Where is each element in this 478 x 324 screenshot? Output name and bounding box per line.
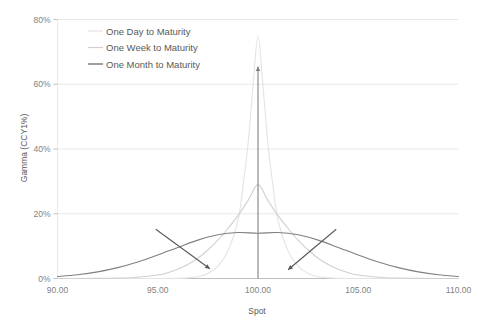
y-tick-label: 60% — [33, 79, 50, 89]
legend-label: One Day to Maturity — [106, 26, 191, 37]
y-tick-label: 40% — [33, 144, 50, 154]
y-tick-label: 20% — [33, 209, 50, 219]
y-tick-label: 80% — [33, 15, 50, 25]
gamma-vs-spot-chart: 0%20%40%60%80% 90.0095.00100.00105.00110… — [0, 0, 478, 324]
legend-label: One Month to Maturity — [106, 59, 200, 70]
legend-label: One Week to Maturity — [106, 42, 198, 53]
x-tick-label: 90.00 — [47, 285, 69, 295]
x-axis-title: Spot — [248, 306, 266, 316]
x-tick-label: 95.00 — [147, 285, 169, 295]
x-tick-label: 110.00 — [446, 285, 472, 295]
x-tick-label: 105.00 — [345, 285, 371, 295]
y-tick-label: 0% — [38, 274, 51, 284]
y-axis-title: Gamma (CCY1%) — [19, 114, 29, 183]
x-tick-label: 100.00 — [245, 285, 271, 295]
chart-canvas: 0%20%40%60%80% 90.0095.00100.00105.00110… — [0, 0, 478, 324]
